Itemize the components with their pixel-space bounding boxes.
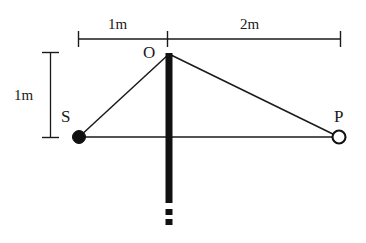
- point-label-O: O: [143, 44, 155, 61]
- point-label-S: S: [61, 108, 70, 125]
- point-marker-P: [333, 131, 346, 144]
- point-marker-S: [73, 131, 86, 144]
- geometry-diagram-svg: [0, 0, 366, 243]
- horizontal-dimension-group: [78, 31, 341, 47]
- diagram-canvas: 1m 2m 1m O S P: [0, 0, 366, 243]
- point-label-P: P: [334, 108, 343, 125]
- segment-O-to-P: [169, 54, 339, 137]
- segment-S-to-O: [79, 54, 169, 137]
- mast-solid-body: [166, 53, 173, 203]
- mast-continuation-dash-2: [166, 219, 173, 225]
- vertical-mast-group: [166, 53, 173, 225]
- segments-group: [79, 54, 339, 137]
- vertical-dimension-group: [42, 52, 59, 138]
- mast-continuation-dash-1: [166, 209, 173, 215]
- dimension-label-2m-horizontal: 2m: [240, 17, 259, 32]
- dimension-label-1m-vertical: 1m: [14, 88, 33, 103]
- dimension-label-1m-horizontal: 1m: [108, 17, 127, 32]
